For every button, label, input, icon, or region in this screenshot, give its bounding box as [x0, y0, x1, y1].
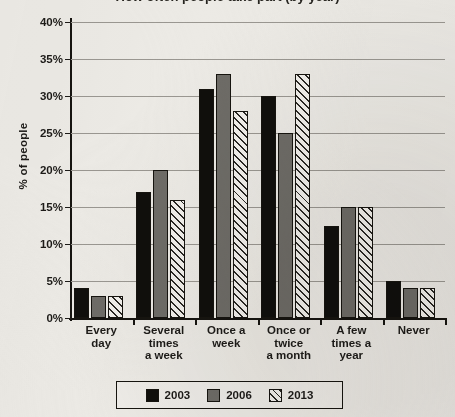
- y-tick-label: 30%: [40, 90, 63, 102]
- bar-2006-3: [278, 133, 293, 318]
- x-category-label: Everyday: [70, 324, 133, 349]
- y-tick-label: 0%: [46, 312, 63, 324]
- bar-chart: % of people 0%5%10%15%20%25%30%35%40% Ev…: [0, 0, 455, 417]
- bar-2006-0: [91, 296, 106, 318]
- x-category-label: Severaltimesa week: [133, 324, 196, 362]
- x-category-label-line: Never: [383, 324, 446, 337]
- bar-2006-1: [153, 170, 168, 318]
- x-category-label-line: Several: [133, 324, 196, 337]
- bar-2006-5: [403, 288, 418, 318]
- bar-2003-1: [136, 192, 151, 318]
- x-category-label-line: a month: [258, 349, 321, 362]
- bar-group: [199, 22, 248, 318]
- y-tick-mark: [65, 22, 71, 23]
- x-tick-mark: [445, 318, 447, 325]
- legend-item-2006[interactable]: 2006: [207, 389, 252, 402]
- chart-legend: 200320062013: [116, 381, 343, 409]
- legend-swatch-icon: [207, 389, 220, 402]
- bar-group: [261, 22, 310, 318]
- x-category-label-line: week: [195, 337, 258, 350]
- bar-2013-4: [358, 207, 373, 318]
- bar-2003-0: [74, 288, 89, 318]
- x-category-label: Never: [383, 324, 446, 337]
- x-category-label-line: Once a: [195, 324, 258, 337]
- x-category-label-line: Every: [70, 324, 133, 337]
- legend-item-2003[interactable]: 2003: [146, 389, 191, 402]
- y-tick-label: 25%: [40, 127, 63, 139]
- x-category-label-line: day: [70, 337, 133, 350]
- y-tick-label: 15%: [40, 201, 63, 213]
- bar-2006-2: [216, 74, 231, 318]
- legend-label: 2003: [165, 389, 191, 401]
- y-tick-label: 10%: [40, 238, 63, 250]
- bar-2013-0: [108, 296, 123, 318]
- bar-group: [74, 22, 123, 318]
- x-category-label-line: Once or: [258, 324, 321, 337]
- x-category-label-line: times a: [320, 337, 383, 350]
- plot-area: 0%5%10%15%20%25%30%35%40% EverydaySevera…: [70, 22, 445, 318]
- bar-2013-3: [295, 74, 310, 318]
- legend-swatch-icon: [146, 389, 159, 402]
- y-tick-label: 5%: [46, 275, 63, 287]
- bar-2003-4: [324, 226, 339, 319]
- legend-item-2013[interactable]: 2013: [269, 389, 314, 402]
- bar-group: [386, 22, 435, 318]
- y-axis-label: % of people: [17, 111, 29, 201]
- bar-2003-2: [199, 89, 214, 318]
- bar-group: [324, 22, 373, 318]
- chart-title: How often people take part (by year): [0, 0, 455, 4]
- y-tick-mark: [65, 96, 71, 97]
- y-tick-mark: [65, 133, 71, 134]
- legend-label: 2013: [288, 389, 314, 401]
- y-tick-mark: [65, 281, 71, 282]
- y-tick-label: 35%: [40, 53, 63, 65]
- bar-group: [136, 22, 185, 318]
- x-category-label-line: A few: [320, 324, 383, 337]
- x-category-label: Once ortwicea month: [258, 324, 321, 362]
- y-tick-label: 40%: [40, 16, 63, 28]
- bar-2006-4: [341, 207, 356, 318]
- y-tick-label: 20%: [40, 164, 63, 176]
- y-tick-mark: [65, 207, 71, 208]
- chart-title-cropped: How often people take part (by year): [0, 0, 455, 9]
- x-category-label: Once aweek: [195, 324, 258, 349]
- x-category-label-line: times: [133, 337, 196, 350]
- legend-label: 2006: [226, 389, 252, 401]
- legend-swatch-icon: [269, 389, 282, 402]
- x-category-label-line: year: [320, 349, 383, 362]
- bar-2003-3: [261, 96, 276, 318]
- x-category-label: A fewtimes ayear: [320, 324, 383, 362]
- y-tick-mark: [65, 318, 71, 319]
- bar-2013-2: [233, 111, 248, 318]
- bar-2013-5: [420, 288, 435, 318]
- y-tick-mark: [65, 244, 71, 245]
- x-category-label-line: twice: [258, 337, 321, 350]
- x-category-label-line: a week: [133, 349, 196, 362]
- bar-2013-1: [170, 200, 185, 318]
- y-tick-mark: [65, 170, 71, 171]
- bar-2003-5: [386, 281, 401, 318]
- y-tick-mark: [65, 59, 71, 60]
